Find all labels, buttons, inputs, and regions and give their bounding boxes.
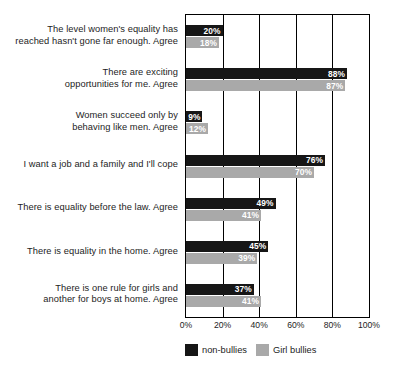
value-axis: 0%20%40%60%80%100% <box>185 320 370 334</box>
category-label-line: reached hasn't gone far enough. Agree <box>0 36 178 48</box>
bar-value-label: 37% <box>235 285 252 293</box>
category-label: I want a job and a family and I'll cope <box>0 159 178 171</box>
category-label-line: another for boys at home. Agree <box>0 294 178 306</box>
bar-girl-bullies: 18% <box>186 37 219 48</box>
bars-layer: 20%18%88%87%9%12%76%70%49%41%45%39%37%41… <box>186 15 369 317</box>
bar-value-label: 41% <box>242 297 259 305</box>
category-label-line: I want a job and a family and I'll cope <box>0 159 178 171</box>
category-label: There is one rule for girls andanother f… <box>0 283 178 306</box>
category-axis: The level women's equality hasreached ha… <box>0 14 182 318</box>
bar-non-bullies: 76% <box>186 155 325 166</box>
category-label-line: There is one rule for girls and <box>0 283 178 295</box>
category-label: The level women's equality hasreached ha… <box>0 24 178 47</box>
bar-non-bullies: 9% <box>186 111 202 122</box>
bar-girl-bullies: 12% <box>186 123 208 134</box>
category-label-line: There is equality in the home. Agree <box>0 246 178 258</box>
bar-group: 45%39% <box>186 241 369 264</box>
category-label-line: behaving like men. Agree <box>0 122 178 134</box>
bar-girl-bullies: 70% <box>186 167 314 178</box>
bar-value-label: 76% <box>306 156 323 164</box>
bar-girl-bullies: 41% <box>186 210 261 221</box>
category-label-line: opportunities for me. Agree <box>0 79 178 91</box>
x-tick-label: 40% <box>251 320 268 331</box>
bar-group: 20%18% <box>186 25 369 48</box>
bar-group: 49%41% <box>186 198 369 221</box>
bar-value-label: 39% <box>238 254 255 262</box>
bar-value-label: 87% <box>326 82 343 90</box>
bar-group: 76%70% <box>186 155 369 178</box>
chart-legend: non-bulliesGirl bullies <box>185 342 385 358</box>
category-label-line: There are exciting <box>0 67 178 79</box>
bar-girl-bullies: 39% <box>186 253 257 264</box>
bar-value-label: 18% <box>200 38 217 46</box>
bar-value-label: 41% <box>242 211 259 219</box>
legend-swatch-icon <box>185 344 198 356</box>
bar-group: 88%87% <box>186 68 369 91</box>
category-label: There is equality before the law. Agree <box>0 202 178 214</box>
category-label: There are excitingopportunities for me. … <box>0 67 178 90</box>
bar-non-bullies: 37% <box>186 284 254 295</box>
category-label: There is equality in the home. Agree <box>0 246 178 258</box>
x-tick-label: 80% <box>324 320 341 331</box>
x-tick-label: 0% <box>180 320 192 331</box>
bar-group: 37%41% <box>186 284 369 307</box>
bar-value-label: 88% <box>328 70 345 78</box>
category-label: Women succeed only bybehaving like men. … <box>0 110 178 133</box>
bar-girl-bullies: 87% <box>186 80 345 91</box>
legend-swatch-icon <box>256 344 269 356</box>
bar-value-label: 9% <box>188 113 200 121</box>
bar-chart: The level women's equality hasreached ha… <box>0 0 399 370</box>
category-label-line: The level women's equality has <box>0 24 178 36</box>
category-label-line: There is equality before the law. Agree <box>0 202 178 214</box>
bar-girl-bullies: 41% <box>186 296 261 307</box>
bar-non-bullies: 45% <box>186 241 268 252</box>
bar-value-label: 20% <box>204 26 221 34</box>
bar-non-bullies: 49% <box>186 198 276 209</box>
x-tick-label: 60% <box>287 320 304 331</box>
x-tick-label: 20% <box>214 320 231 331</box>
bar-value-label: 49% <box>257 199 274 207</box>
legend-item[interactable]: Girl bullies <box>256 344 316 356</box>
legend-item[interactable]: non-bullies <box>185 344 247 356</box>
bar-non-bullies: 88% <box>186 68 347 79</box>
bar-group: 9%12% <box>186 111 369 134</box>
category-label-line: Women succeed only by <box>0 110 178 122</box>
plot-area: 20%18%88%87%9%12%76%70%49%41%45%39%37%41… <box>185 14 370 318</box>
legend-label: non-bullies <box>202 345 247 356</box>
bar-non-bullies: 20% <box>186 25 223 36</box>
bar-value-label: 70% <box>295 168 312 176</box>
bar-value-label: 45% <box>249 242 266 250</box>
x-tick-label: 100% <box>358 320 380 331</box>
legend-label: Girl bullies <box>273 345 316 356</box>
bar-value-label: 12% <box>189 125 206 133</box>
